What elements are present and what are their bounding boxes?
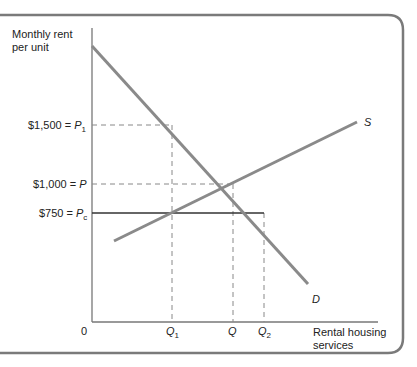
demand-curve	[92, 46, 308, 284]
origin-label: 0	[81, 325, 87, 337]
y-axis-label-line2: per unit	[12, 41, 49, 53]
p-label: $1,000 = P	[33, 178, 87, 190]
guide-lines	[92, 125, 264, 322]
x-axis-label-line2: services	[313, 339, 354, 351]
pc-label: $750 = Pc	[39, 207, 87, 222]
y-axis-label-line1: Monthly rent	[12, 28, 73, 40]
supply-curve	[114, 122, 357, 241]
q1-label: Q1	[166, 325, 180, 340]
q2-label: Q2	[258, 325, 272, 340]
supply-label: S	[364, 116, 372, 128]
p1-label: $1,500 = P1	[28, 119, 87, 134]
q-label: Q	[228, 325, 237, 337]
x-axis-label-line1: Rental housing	[313, 326, 386, 338]
demand-label: D	[312, 293, 320, 305]
rent-control-chart: Monthly rent per unit $1,500 = P1 $1,000…	[0, 0, 417, 367]
